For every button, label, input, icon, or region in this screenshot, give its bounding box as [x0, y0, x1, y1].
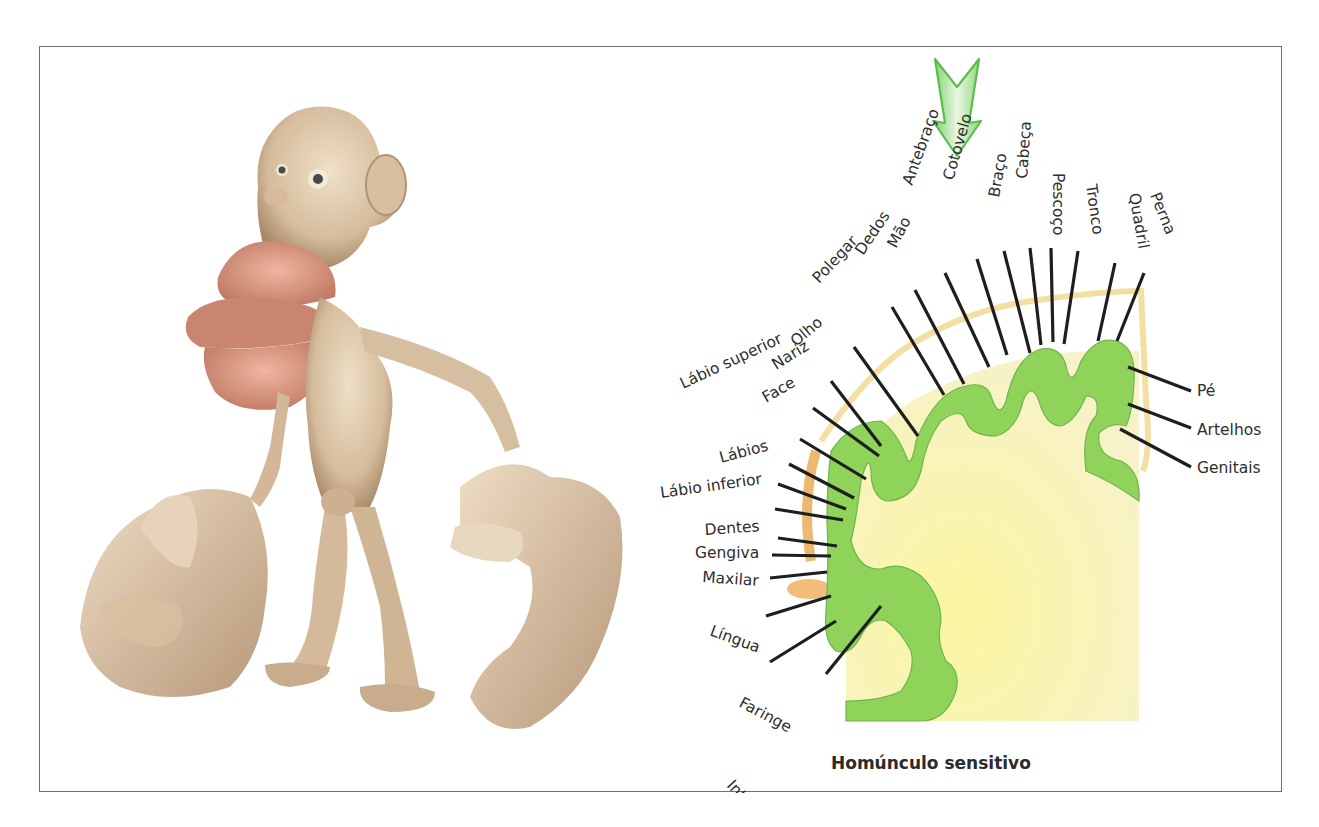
- leader-line: [1030, 248, 1041, 345]
- label-genitais: Genitais: [1197, 459, 1261, 477]
- sensory-homunculus-diagram: PernaQuadrilTroncoPescoçoCabeçaBraçoCoto…: [40, 47, 1283, 793]
- label-gengiva: Gengiva: [695, 544, 759, 562]
- label-pescoço: Pescoço: [1049, 173, 1067, 235]
- label-polegar: Polegar: [809, 232, 862, 287]
- label-maxilar: Maxilar: [702, 568, 760, 590]
- label-intra-abdominal: Intra-abdominal: [723, 776, 820, 793]
- label-língua: Língua: [708, 622, 763, 657]
- leader-line: [772, 555, 831, 556]
- label-lábios: Lábios: [717, 437, 770, 467]
- label-braço: Braço: [985, 152, 1010, 199]
- leader-line: [1098, 263, 1115, 341]
- label-face: Face: [759, 373, 798, 406]
- label-dedos: Dedos: [851, 208, 893, 259]
- label-tronco: Tronco: [1082, 182, 1107, 236]
- label-antebraço: Antebraço: [899, 106, 943, 187]
- label-pé: Pé: [1197, 382, 1215, 400]
- leader-line: [1051, 248, 1053, 342]
- label-cabeça: Cabeça: [1013, 120, 1035, 179]
- figure-frame: PernaQuadrilTroncoPescoçoCabeçaBraçoCoto…: [39, 46, 1282, 792]
- label-dentes: Dentes: [704, 517, 760, 539]
- label-lábio-superior: Lábio superior: [677, 329, 785, 392]
- label-faringe: Faringe: [736, 694, 795, 737]
- leader-line: [770, 621, 836, 662]
- leader-line: [770, 572, 827, 578]
- diagram-caption: Homúnculo sensitivo: [831, 753, 1031, 773]
- label-lábio-inferior: Lábio inferior: [659, 470, 763, 502]
- leader-line: [766, 596, 831, 616]
- cortex-diagram: PernaQuadrilTroncoPescoçoCabeçaBraçoCoto…: [40, 47, 1283, 793]
- label-artelhos: Artelhos: [1197, 421, 1261, 439]
- label-perna: Perna: [1146, 190, 1179, 237]
- leader-line: [945, 273, 989, 367]
